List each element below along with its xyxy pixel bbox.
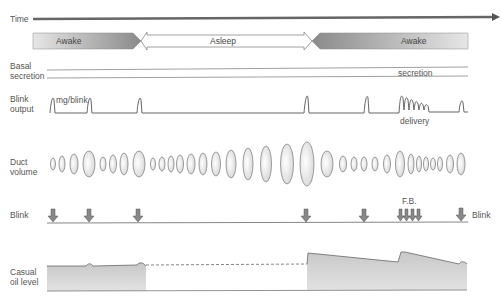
blink-output-label-line2: output [10, 104, 34, 114]
basal-label-line2: secretion [10, 71, 45, 81]
time-axis-arrow [33, 13, 500, 21]
blink-right-label: Blink [472, 210, 490, 220]
delivery-label: delivery [400, 116, 429, 126]
blink-arrows [48, 208, 466, 222]
blink-output-label-line1: Blink [10, 94, 28, 104]
awake-right-label: Awake [401, 36, 426, 46]
duct-label-line1: Duct [10, 157, 27, 167]
time-label: Time [10, 14, 29, 24]
fb-label: F.B. [402, 196, 417, 206]
blink-left-label: Blink [10, 210, 28, 220]
awake-right-bar [312, 33, 468, 49]
asleep-label: Asleep [210, 36, 236, 46]
duct-volume-ellipses [51, 142, 466, 186]
awake-left-bar [33, 33, 141, 49]
casual-label-line2: oil level [10, 277, 38, 287]
casual-label-line1: Casual [10, 267, 36, 277]
blink-output-trace [50, 96, 468, 113]
casual-oil-level-chart [47, 252, 467, 291]
duct-label-line2: volume [10, 167, 37, 177]
blink-baseline [47, 222, 468, 223]
basal-label-line1: Basal [10, 61, 31, 71]
awake-left-label: Awake [56, 36, 81, 46]
mg-per-blink-label: mg/blink [56, 95, 88, 105]
basal-secretion-right-label: secretion [398, 68, 433, 78]
